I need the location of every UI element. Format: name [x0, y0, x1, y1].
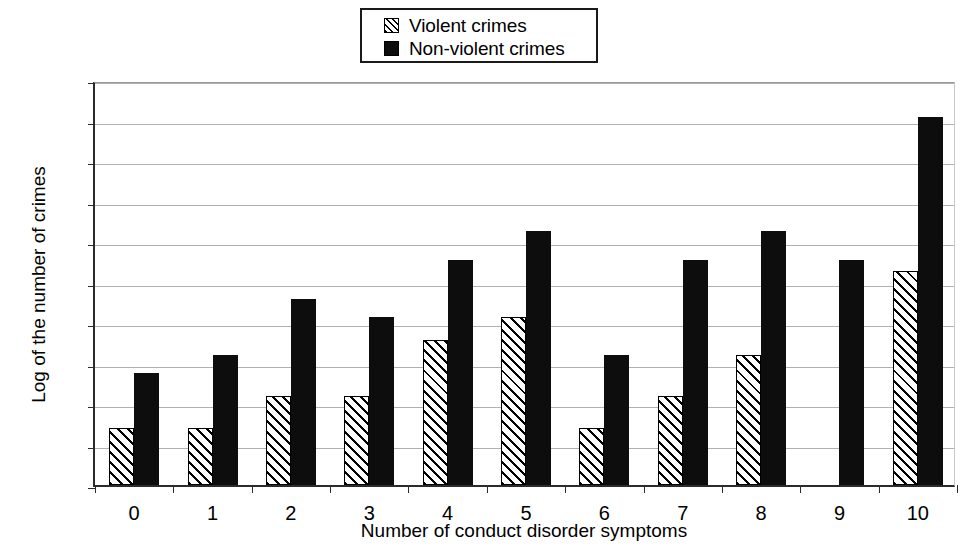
x-tick-mark — [957, 485, 958, 493]
y-tick-mark — [88, 367, 95, 368]
y-tick-mark — [88, 488, 95, 489]
bar-violent-2 — [266, 396, 291, 485]
bar-nonviolent-6 — [604, 355, 629, 485]
x-tick-mark — [722, 485, 723, 493]
bars-container — [95, 83, 954, 485]
y-tick-mark — [88, 124, 95, 125]
legend-entry-violent: Violent crimes — [384, 14, 596, 37]
bar-violent-1 — [188, 428, 213, 485]
bar-nonviolent-8 — [761, 231, 786, 485]
y-tick-mark — [88, 164, 95, 165]
bar-violent-0 — [109, 428, 134, 485]
x-tick-mark — [565, 485, 566, 493]
bar-violent-7 — [658, 396, 683, 485]
plot-area: 00.511.522.533.544.55 012345678910 — [93, 82, 955, 487]
hatched-swatch-icon — [384, 18, 399, 33]
y-tick-mark — [88, 83, 95, 84]
x-tick-mark — [330, 485, 331, 493]
bar-nonviolent-9 — [839, 260, 864, 485]
x-tick-mark — [95, 485, 96, 493]
x-axis-title: Number of conduct disorder symptoms — [93, 520, 955, 542]
bar-nonviolent-10 — [918, 117, 943, 485]
x-tick-mark — [252, 485, 253, 493]
y-tick-mark — [88, 326, 95, 327]
x-tick-mark — [879, 485, 880, 493]
bar-violent-6 — [579, 428, 604, 485]
legend-label-violent: Violent crimes — [409, 16, 527, 35]
y-tick-mark — [88, 286, 95, 287]
solid-swatch-icon — [384, 41, 399, 56]
legend-label-nonviolent: Non-violent crimes — [409, 39, 565, 58]
y-axis-title: Log of the number of crimes — [26, 82, 52, 487]
x-tick-mark — [800, 485, 801, 493]
bar-violent-5 — [501, 317, 526, 485]
bar-nonviolent-4 — [448, 260, 473, 485]
legend-entry-nonviolent: Non-violent crimes — [384, 37, 596, 60]
x-tick-mark — [408, 485, 409, 493]
bar-nonviolent-1 — [213, 355, 238, 485]
y-tick-mark — [88, 205, 95, 206]
bar-nonviolent-2 — [291, 299, 316, 485]
bar-violent-10 — [893, 271, 918, 485]
bar-violent-4 — [423, 340, 448, 485]
y-tick-mark — [88, 407, 95, 408]
x-tick-mark — [173, 485, 174, 493]
bar-violent-8 — [736, 355, 761, 485]
x-tick-mark — [487, 485, 488, 493]
bar-nonviolent-7 — [683, 260, 708, 485]
y-tick-mark — [88, 448, 95, 449]
x-tick-mark — [644, 485, 645, 493]
bar-nonviolent-0 — [134, 373, 159, 485]
bar-violent-3 — [344, 396, 369, 485]
bar-nonviolent-5 — [526, 231, 551, 485]
bar-nonviolent-3 — [369, 317, 394, 485]
y-tick-mark — [88, 245, 95, 246]
chart-legend: Violent crimes Non-violent crimes — [360, 8, 598, 63]
